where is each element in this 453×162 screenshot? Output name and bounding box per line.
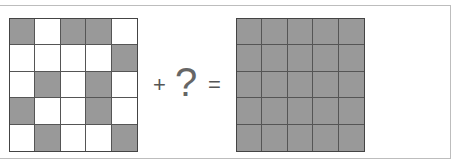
grid-cell	[262, 72, 287, 98]
grid-cell	[262, 125, 287, 151]
grid-cell	[339, 125, 364, 151]
grid-cell	[112, 72, 137, 98]
grid-cell	[35, 45, 60, 71]
grid-cell	[237, 125, 262, 151]
grid-cell	[339, 45, 364, 71]
grid-cell	[288, 45, 313, 71]
grid-cell	[35, 72, 60, 98]
grid-cell	[61, 45, 86, 71]
grid-cell	[313, 72, 338, 98]
grid-cell	[86, 72, 111, 98]
grid-cell	[313, 125, 338, 151]
grid-cell	[86, 125, 111, 151]
plus-sign: +	[153, 72, 166, 98]
grid-cell	[61, 98, 86, 124]
grid-cell	[86, 45, 111, 71]
grid-cell	[35, 19, 60, 45]
grid-cell	[10, 19, 35, 45]
grid-cell	[288, 19, 313, 45]
right-grid	[236, 18, 365, 152]
grid-cell	[35, 98, 60, 124]
question-mark: ?	[175, 60, 197, 105]
grid-cell	[112, 98, 137, 124]
grid-cell	[339, 98, 364, 124]
grid-cell	[237, 19, 262, 45]
grid-cell	[10, 98, 35, 124]
grid-cell	[262, 19, 287, 45]
grid-cell	[61, 72, 86, 98]
grid-cell	[288, 72, 313, 98]
grid-cell	[288, 98, 313, 124]
grid-cell	[61, 19, 86, 45]
grid-cell	[237, 45, 262, 71]
grid-cell	[313, 45, 338, 71]
grid-cell	[112, 19, 137, 45]
grid-cell	[10, 72, 35, 98]
grid-cell	[86, 98, 111, 124]
grid-cell	[112, 45, 137, 71]
grid-cell	[313, 98, 338, 124]
grid-cell	[237, 98, 262, 124]
grid-cell	[112, 125, 137, 151]
left-grid	[9, 18, 138, 152]
grid-cell	[288, 125, 313, 151]
grid-cell	[339, 19, 364, 45]
grid-cell	[339, 72, 364, 98]
grid-cell	[86, 19, 111, 45]
grid-cell	[61, 125, 86, 151]
grid-cell	[10, 45, 35, 71]
grid-cell	[262, 45, 287, 71]
grid-cell	[237, 72, 262, 98]
grid-cell	[313, 19, 338, 45]
equals-sign: =	[208, 72, 221, 98]
grid-cell	[10, 125, 35, 151]
grid-cell	[262, 98, 287, 124]
grid-cell	[35, 125, 60, 151]
